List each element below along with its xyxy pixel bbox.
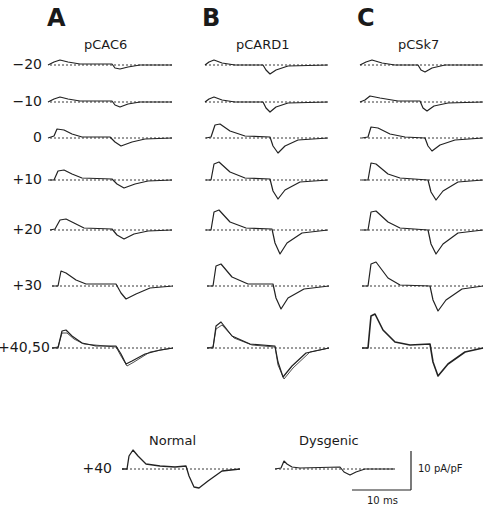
trace-c-m10	[360, 96, 483, 111]
trace-c-p30	[362, 262, 483, 311]
trace-a-0	[48, 129, 172, 146]
trace-b-0	[206, 124, 328, 153]
trace-c-m20	[360, 60, 483, 72]
trace-c-p20	[362, 211, 483, 254]
trace-plot	[0, 0, 485, 512]
normal-label: Normal	[149, 433, 196, 448]
trace-c-p10	[362, 163, 483, 200]
trace-c-0	[362, 127, 483, 151]
trace-b-p30	[207, 264, 329, 309]
scale-y-label: 10 pA/pF	[418, 463, 463, 474]
trace-dysgenic	[275, 461, 395, 475]
trace-b-m10	[205, 97, 328, 112]
dysgenic-label: Dysgenic	[299, 433, 359, 448]
trace-a-p20	[50, 219, 172, 239]
scale-x-label: 10 ms	[367, 495, 398, 506]
trace-b-p20	[206, 210, 328, 254]
trace-c-p40	[362, 314, 483, 376]
trace-a-m20	[48, 60, 172, 69]
voltage-label-bottom: +40	[64, 460, 112, 476]
trace-a-p10	[48, 170, 172, 188]
trace-a-p30	[52, 271, 173, 299]
trace-b-m20	[205, 60, 328, 74]
trace-b-p40	[207, 322, 329, 377]
trace-b-p10	[206, 162, 328, 199]
